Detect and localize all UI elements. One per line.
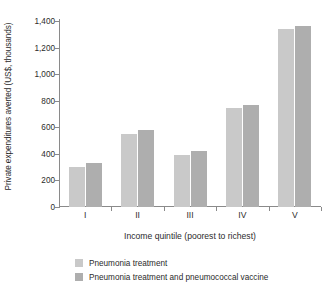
y-axis-tick-label: 200	[41, 176, 55, 185]
x-axis-tick-label: V	[292, 210, 298, 220]
bar	[138, 130, 154, 207]
y-axis-tick-labels: 02004006008001,0001,2001,400	[18, 0, 59, 212]
plot-area	[59, 21, 321, 207]
y-axis-tick-mark	[55, 207, 59, 208]
x-axis-tick-mark	[321, 207, 322, 211]
y-axis-tick-label: 600	[41, 123, 55, 132]
legend-label: Pneumonia treatment	[89, 259, 167, 268]
y-axis-tick-label: 1,200	[35, 43, 56, 52]
legend-item: Pneumonia treatment	[75, 256, 325, 270]
bar	[191, 151, 207, 207]
y-axis-tick-label: 400	[41, 149, 55, 158]
bars-layer	[59, 21, 321, 207]
bar-chart-figure: Private expenditures averted (US$, thous…	[0, 0, 333, 302]
bar	[174, 155, 190, 207]
bar	[243, 105, 259, 207]
y-axis-title: Private expenditures averted (US$, thous…	[0, 0, 18, 212]
bar	[226, 108, 242, 207]
x-axis-tick-label: II	[135, 210, 140, 220]
bar	[278, 29, 294, 207]
x-axis-tick-labels: IIIIIIIVV	[59, 210, 321, 226]
x-axis-tick-label: III	[186, 210, 193, 220]
x-axis-tick-label: I	[84, 210, 86, 220]
y-axis-tick-label: 800	[41, 96, 55, 105]
legend-label: Pneumonia treatment and pneumococcal vac…	[89, 273, 268, 282]
bar	[295, 26, 311, 207]
chart-legend: Pneumonia treatmentPneumonia treatment a…	[75, 256, 325, 284]
legend-swatch	[75, 273, 83, 281]
legend-item: Pneumonia treatment and pneumococcal vac…	[75, 270, 325, 284]
legend-swatch	[75, 259, 83, 267]
y-axis-tick-label: 1,400	[35, 17, 56, 26]
y-axis-title-text: Private expenditures averted (US$, thous…	[5, 22, 14, 190]
y-axis-tick-label: 1,000	[35, 70, 56, 79]
bar	[86, 163, 102, 207]
x-axis-title: Income quintile (poorest to richest)	[59, 231, 321, 241]
bar	[69, 167, 85, 207]
bar	[121, 134, 137, 207]
x-axis-tick-label: IV	[238, 210, 246, 220]
